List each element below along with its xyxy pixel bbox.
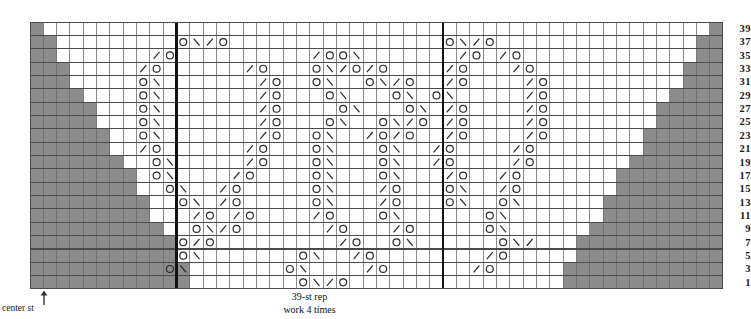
row-number: 31 xyxy=(726,75,751,88)
rep-label-line1: 39-st rep xyxy=(177,291,442,302)
row-number: 25 xyxy=(726,115,751,128)
row-number: 19 xyxy=(726,156,751,169)
row-number: 23 xyxy=(726,129,751,142)
row-number: 39 xyxy=(726,22,751,35)
row-number: 13 xyxy=(726,196,751,209)
row-number: 35 xyxy=(726,49,751,62)
row-number: 29 xyxy=(726,89,751,102)
row-number: 1 xyxy=(726,276,751,289)
row-number: 27 xyxy=(726,102,751,115)
row-number: 7 xyxy=(726,236,751,249)
chart-grid[interactable] xyxy=(30,22,723,289)
row-number-gutter: 39373533312927252321191715131197531 xyxy=(726,22,751,289)
row-number: 5 xyxy=(726,249,751,262)
knitting-chart-page: 39373533312927252321191715131197531 cent… xyxy=(0,0,751,319)
rep-label-line2: work 4 times xyxy=(177,304,442,315)
row-number: 3 xyxy=(726,262,751,275)
row-number: 11 xyxy=(726,209,751,222)
row-number: 33 xyxy=(726,62,751,75)
center-stitch-label: center st xyxy=(2,303,34,313)
center-stitch-arrow-icon xyxy=(37,290,51,306)
chart-grid-svg xyxy=(30,22,723,289)
row-number: 17 xyxy=(726,169,751,182)
row-number: 9 xyxy=(726,222,751,235)
row-number: 37 xyxy=(726,35,751,48)
row-number: 21 xyxy=(726,142,751,155)
row-number: 15 xyxy=(726,182,751,195)
